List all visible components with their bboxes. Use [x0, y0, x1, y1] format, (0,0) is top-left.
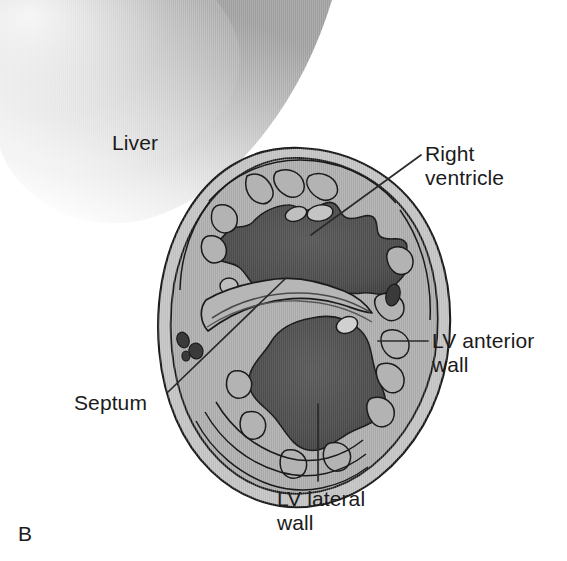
anatomy-illustration — [0, 0, 567, 561]
coronary-vessel-left-c — [182, 351, 190, 361]
trabecula-lv-left-2 — [227, 371, 252, 398]
label-right-ventricle: Right ventricle — [425, 142, 504, 189]
label-lv-anterior-wall: LV anterior wall — [432, 329, 534, 376]
panel-letter: B — [18, 523, 32, 545]
label-lv-lateral-wall: LV lateral wall — [277, 487, 365, 534]
figure-root: Liver Right ventricle LV anterior wall L… — [0, 0, 567, 561]
label-septum: Septum — [74, 391, 147, 415]
label-liver: Liver — [112, 131, 158, 155]
trabecula-lv-inferior-2 — [280, 450, 306, 478]
trabecula-rv-left-1 — [211, 205, 237, 233]
trabecula-rv-left-2 — [201, 236, 226, 263]
